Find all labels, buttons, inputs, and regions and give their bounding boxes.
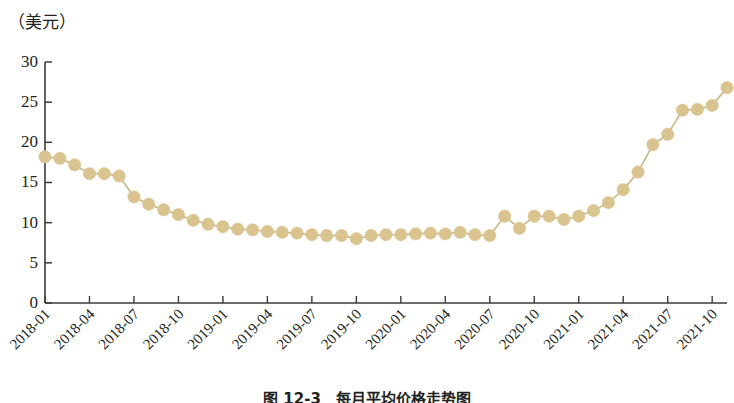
- data-point: [172, 208, 184, 220]
- data-point: [98, 167, 110, 179]
- y-tick-label: 25: [21, 92, 38, 111]
- y-axis: 051015202530: [21, 52, 52, 312]
- data-point: [513, 222, 525, 234]
- line-chart: 051015202530 2018-012018-042018-072018-1…: [0, 0, 734, 403]
- x-tick-label: 2019-10: [318, 306, 365, 353]
- data-point: [350, 233, 362, 245]
- data-point: [424, 227, 436, 239]
- x-tick-label: 2021-01: [540, 306, 587, 353]
- y-tick-label: 10: [21, 213, 38, 232]
- x-tick-label: 2021-07: [629, 305, 676, 352]
- data-point: [676, 104, 688, 116]
- data-point: [380, 229, 392, 241]
- data-point: [528, 210, 540, 222]
- data-point: [602, 196, 614, 208]
- data-point: [202, 218, 214, 230]
- figure-caption: 图 12-3 每月平均价格走势图: [0, 391, 734, 403]
- x-tick-label: 2021-04: [585, 305, 632, 352]
- data-point: [498, 210, 510, 222]
- x-tick-label: 2018-04: [51, 305, 98, 352]
- data-point: [157, 204, 169, 216]
- y-tick-label: 20: [21, 132, 38, 151]
- data-point: [617, 184, 629, 196]
- x-tick-label: 2019-01: [184, 306, 231, 353]
- y-tick-label: 30: [21, 52, 38, 71]
- data-point: [647, 139, 659, 151]
- data-point: [558, 213, 570, 225]
- data-point: [454, 226, 466, 238]
- data-point: [706, 99, 718, 111]
- figure-container: （美元） 051015202530 2018-012018-042018-072…: [0, 0, 734, 403]
- data-point: [68, 159, 80, 171]
- data-point: [469, 229, 481, 241]
- data-point: [395, 229, 407, 241]
- data-point: [217, 220, 229, 232]
- data-point: [39, 151, 51, 163]
- y-tick-label: 5: [30, 253, 39, 272]
- x-tick-label: 2021-10: [674, 306, 721, 353]
- data-point: [573, 210, 585, 222]
- data-point: [261, 225, 273, 237]
- data-point: [276, 226, 288, 238]
- y-tick-label: 15: [21, 172, 38, 191]
- data-point: [335, 229, 347, 241]
- x-tick-label: 2020-01: [362, 306, 409, 353]
- data-point: [83, 167, 95, 179]
- data-point: [632, 166, 644, 178]
- data-point: [543, 210, 555, 222]
- data-point: [128, 191, 140, 203]
- data-point: [232, 223, 244, 235]
- data-point: [365, 229, 377, 241]
- x-tick-label: 2020-04: [407, 305, 454, 352]
- data-point: [691, 103, 703, 115]
- x-tick-label: 2018-10: [140, 306, 187, 353]
- data-point: [721, 82, 733, 94]
- x-tick-label: 2018-07: [95, 305, 142, 352]
- data-point: [187, 214, 199, 226]
- data-point: [321, 229, 333, 241]
- x-tick-label: 2018-01: [6, 306, 53, 353]
- data-point: [662, 128, 674, 140]
- x-tick-label: 2020-10: [496, 306, 543, 353]
- data-point: [113, 170, 125, 182]
- data-point: [54, 152, 66, 164]
- data-point: [291, 227, 303, 239]
- x-tick-label: 2019-04: [229, 305, 276, 352]
- data-point: [439, 228, 451, 240]
- data-point: [246, 224, 258, 236]
- data-point: [409, 228, 421, 240]
- x-axis: 2018-012018-042018-072018-102019-012019-…: [6, 296, 727, 352]
- y-tick-label: 0: [30, 293, 39, 312]
- data-point: [306, 229, 318, 241]
- data-point: [484, 229, 496, 241]
- data-point: [143, 198, 155, 210]
- x-tick-label: 2019-07: [273, 305, 320, 352]
- data-series: [39, 82, 733, 245]
- data-point: [587, 204, 599, 216]
- x-tick-label: 2020-07: [451, 305, 498, 352]
